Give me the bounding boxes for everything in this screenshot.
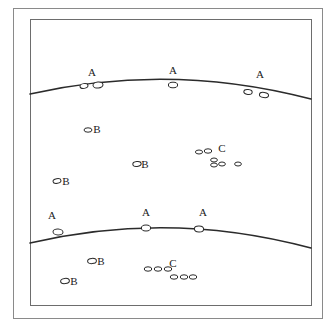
clast-c-upper-0 [195, 150, 202, 154]
label-b-upper-left: B [93, 123, 100, 135]
clast-b-lower-lower-0 [60, 278, 69, 284]
marker-a-upper-mid: A [168, 64, 177, 88]
label-a-lower-left: A [48, 209, 56, 221]
label-a-upper-left: A [88, 66, 96, 78]
label-c-upper: C [218, 142, 225, 154]
clast-c-lower-0 [144, 267, 152, 271]
clast-b-upper-mid-0 [133, 161, 142, 167]
clast-c-lower-3 [170, 275, 178, 279]
label-a-lower-right: A [199, 206, 207, 218]
clast-b-upper-left-0 [84, 128, 92, 132]
clast-a-upper-mid-0 [168, 82, 177, 88]
clast-a-upper-right-0 [244, 89, 253, 95]
clast-c-upper-2 [211, 158, 218, 162]
cross-section-figure: AAABBBAAABB CC [0, 0, 336, 329]
clast-b-lower-upper-0 [87, 258, 96, 264]
clast-a-lower-right-0 [194, 226, 203, 232]
clast-c-upper-4 [219, 162, 226, 166]
clast-c-lower-1 [154, 267, 162, 271]
figure-background [0, 0, 336, 329]
label-a-upper-mid: A [169, 64, 177, 76]
clast-a-lower-mid-0 [141, 225, 150, 231]
label-c-lower: C [169, 257, 176, 269]
clast-c-upper-1 [204, 149, 212, 153]
clast-a-lower-left-0 [53, 229, 63, 236]
figure-container: AAABBBAAABB CC [0, 0, 336, 329]
label-a-lower-mid: A [142, 206, 150, 218]
clast-c-lower-5 [189, 275, 197, 279]
label-b-lower-upper: B [97, 255, 104, 267]
clast-c-upper-3 [211, 163, 218, 167]
label-b-upper-mid: B [141, 158, 148, 170]
label-b-upper-lowleft: B [62, 175, 69, 187]
clast-a-upper-left-0 [80, 83, 89, 89]
label-b-lower-lower: B [70, 275, 77, 287]
clast-c-lower-4 [180, 275, 188, 279]
clast-c-upper-5 [235, 162, 242, 166]
label-a-upper-right: A [256, 68, 264, 80]
